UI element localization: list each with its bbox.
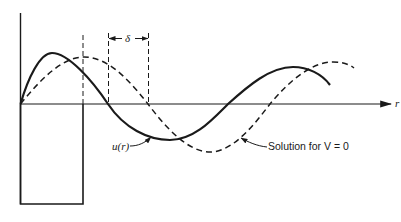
- r-axis-label: r: [395, 97, 400, 109]
- potential-well: [21, 104, 84, 204]
- u-r-label: u(r): [112, 140, 129, 153]
- u-r-pointer-arrow: [130, 137, 151, 146]
- free-solution-label: Solution for V = 0: [268, 140, 349, 152]
- u-r-solid-curve: [21, 53, 331, 140]
- delta-label: δ: [125, 32, 131, 44]
- scattering-diagram: r δ u(r) Solution for V = 0: [0, 0, 401, 222]
- free-solution-pointer-arrow: [241, 138, 267, 147]
